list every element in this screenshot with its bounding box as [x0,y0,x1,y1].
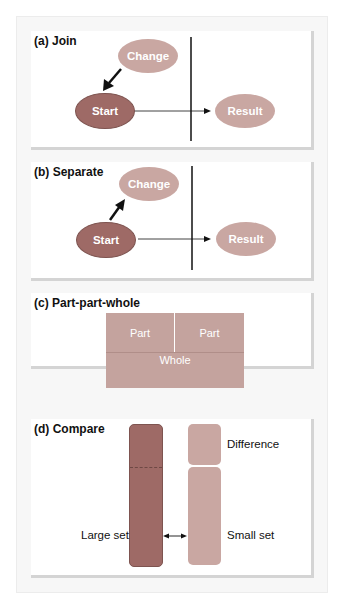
result-node: Result [215,94,275,128]
part-box-1: Part [106,313,174,352]
panel-part-part-whole: (c) Part-part-whole Part Part Whole [31,293,314,369]
panel-separate: (b) Separate Change Start Result [31,162,314,281]
difference-label: Difference [227,438,279,450]
start-node: Start [75,93,135,129]
start-node: Start [76,222,136,258]
result-node: Result [216,222,276,256]
whole-box-lower [106,366,244,388]
change-node: Change [118,39,178,73]
part-box-2: Part [175,313,244,352]
whole-box: Whole [106,352,244,367]
large-set-label: Large set [81,529,129,541]
panel-join: (a) Join Change Start Result [31,31,314,150]
panel-title: (c) Part-part-whole [34,296,140,310]
small-set-label: Small set [227,529,274,541]
panel-compare: (d) Compare Difference Large set Small s… [31,419,314,578]
change-node: Change [119,167,179,201]
